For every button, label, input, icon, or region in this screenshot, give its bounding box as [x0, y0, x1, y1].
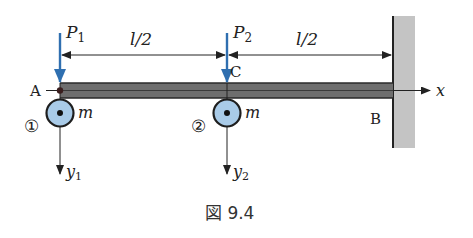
point-a-marker: [46, 87, 63, 93]
label-dim-right: l/2: [296, 29, 318, 49]
label-mass-2-id: ②: [191, 116, 206, 136]
fixed-wall: [393, 16, 415, 148]
mass-2: [214, 100, 241, 127]
label-point-b: B: [370, 110, 381, 128]
mass-1: [47, 100, 74, 127]
figure-caption: 図 9.4: [205, 203, 254, 223]
label-y2: y2: [232, 162, 249, 183]
label-p2: P2: [232, 22, 252, 45]
label-point-a: A: [29, 82, 41, 100]
label-point-c: C: [230, 63, 241, 81]
label-mass-1: m: [78, 103, 93, 122]
beam-diagram: P1 P2 l/2 l/2 A C B x m m ① ② y1 y2 図 9.…: [0, 0, 473, 238]
label-dim-left: l/2: [130, 29, 152, 49]
label-p1: P1: [65, 22, 85, 45]
label-mass-2: m: [245, 103, 260, 122]
label-y1: y1: [65, 162, 82, 183]
label-mass-1-id: ①: [24, 116, 39, 136]
label-x-axis: x: [436, 81, 445, 100]
